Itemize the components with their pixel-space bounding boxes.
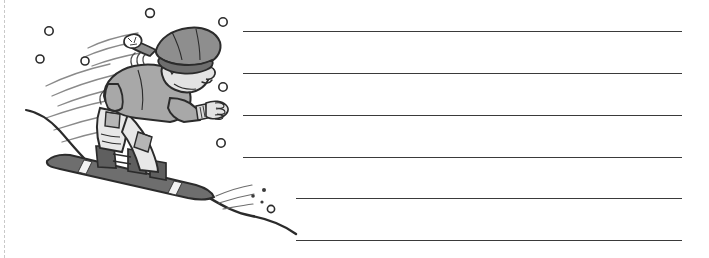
- worksheet-page: [0, 0, 709, 258]
- writing-line-5: [296, 198, 682, 199]
- writing-line-6: [296, 240, 682, 241]
- writing-line-4: [243, 157, 682, 158]
- writing-line-1: [243, 31, 682, 32]
- writing-line-3: [243, 115, 682, 116]
- writing-line-2: [243, 73, 682, 74]
- writing-lines: [0, 0, 709, 258]
